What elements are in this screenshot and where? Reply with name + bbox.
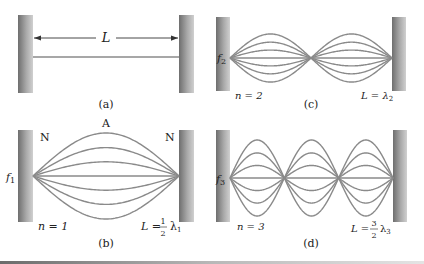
svg-text:3: 3	[371, 219, 376, 228]
caption-c: (c)	[304, 98, 319, 111]
antinode-label: A	[101, 117, 111, 130]
length-relation: L = 3 2 λ3	[350, 219, 391, 240]
panel-a: L (a)	[18, 15, 194, 111]
right-wall	[179, 15, 194, 93]
svg-text:λ3: λ3	[380, 223, 391, 236]
standing-waves-diagram: L (a) N A N f1 n = 1 L = 1 2 λ1 (b) f2 n…	[0, 0, 424, 264]
caption-d: (d)	[303, 237, 319, 250]
wave-envelopes	[230, 140, 393, 216]
panel-c: f2 n = 2 L = λ2 (c)	[216, 17, 406, 111]
caption-a: (a)	[98, 98, 113, 111]
length-label: L	[101, 30, 111, 45]
length-relation: L = 1 2 λ1	[140, 217, 181, 238]
node-label-left: N	[40, 131, 50, 144]
svg-text:1: 1	[160, 217, 165, 226]
length-relation: L = λ2	[360, 90, 393, 103]
panel-d: f3 n = 3 L = 3 2 λ3 (d)	[215, 130, 407, 250]
mode-number-label: n = 2	[235, 90, 263, 101]
right-wall	[392, 17, 406, 91]
wave-envelope	[33, 176, 179, 190]
mode-number-label: n = 1	[38, 220, 68, 233]
left-wall	[18, 130, 33, 222]
svg-text:2: 2	[160, 229, 165, 238]
wave-envelopes	[33, 133, 179, 219]
wave-envelope	[33, 162, 179, 176]
panel-b: N A N f1 n = 1 L = 1 2 λ1 (b)	[5, 117, 194, 250]
svg-text:2: 2	[371, 231, 376, 240]
svg-text:L =: L =	[350, 223, 369, 234]
left-wall	[18, 15, 33, 93]
mode-number-label: n = 3	[237, 221, 265, 232]
frequency-label: f1	[5, 171, 15, 185]
right-wall	[393, 130, 407, 222]
right-wall	[179, 130, 194, 222]
node-label-right: N	[165, 131, 175, 144]
wave-envelopes	[230, 34, 392, 82]
caption-b: (b)	[98, 237, 114, 250]
svg-text:λ1: λ1	[170, 220, 181, 234]
svg-text:L =: L =	[140, 220, 161, 233]
